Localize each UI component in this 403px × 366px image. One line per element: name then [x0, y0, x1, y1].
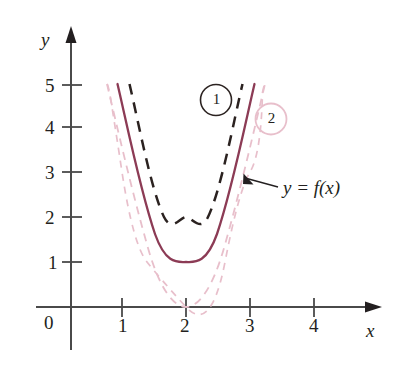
- curve-light-dashed-original-path: [107, 84, 186, 202]
- y-tick-label-3: 3: [45, 163, 55, 182]
- curve-light-dashed-original-visible: [107, 84, 265, 307]
- y-axis-arrowhead: [66, 26, 77, 43]
- curve-light-dashed-original: [107, 84, 265, 315]
- marker-two-label: 2: [266, 111, 277, 126]
- x-tick-label-1: 1: [118, 316, 128, 335]
- x-tick-label-2: 2: [180, 316, 190, 335]
- marker-one-label: 1: [211, 92, 222, 107]
- y-tick-label-5: 5: [45, 76, 55, 95]
- origin-label: 0: [44, 313, 54, 332]
- x-axis-label: x: [366, 321, 374, 340]
- y-tick-label-2: 2: [45, 208, 55, 227]
- x-tick-label-3: 3: [245, 316, 255, 335]
- curve-solid-fx: [118, 84, 255, 262]
- parabola-transformation-chart: [0, 0, 403, 366]
- figure-container: y x 0 5 4 3 2 1 1 2 3 4 1 2 y = f(x): [0, 0, 403, 366]
- x-axis-arrowhead: [365, 302, 382, 313]
- y-tick-label-4: 4: [45, 118, 55, 137]
- y-axis-label: y: [41, 30, 49, 49]
- function-label-text: y = f(x): [283, 178, 340, 197]
- x-tick-label-4: 4: [309, 316, 319, 335]
- y-tick-label-1: 1: [48, 253, 58, 272]
